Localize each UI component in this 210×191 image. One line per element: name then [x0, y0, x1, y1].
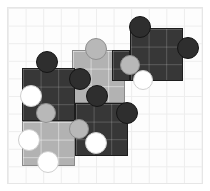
knob-1-icon: [129, 16, 151, 38]
knob-15-icon: [37, 151, 59, 173]
knob-13-icon: [85, 132, 107, 154]
knob-10-icon: [36, 103, 56, 123]
knob-11-icon: [116, 102, 138, 124]
knob-7-icon: [86, 85, 108, 107]
puzzle-pieces-layer: [0, 0, 210, 191]
knob-2-icon: [177, 37, 199, 59]
knob-14-icon: [18, 129, 40, 151]
knob-6-icon: [69, 68, 91, 90]
knob-4-icon: [133, 70, 153, 90]
puzzle-scene: [0, 0, 210, 191]
knob-8-icon: [36, 51, 58, 73]
knob-5-icon: [85, 38, 107, 60]
knob-9-icon: [20, 85, 42, 107]
